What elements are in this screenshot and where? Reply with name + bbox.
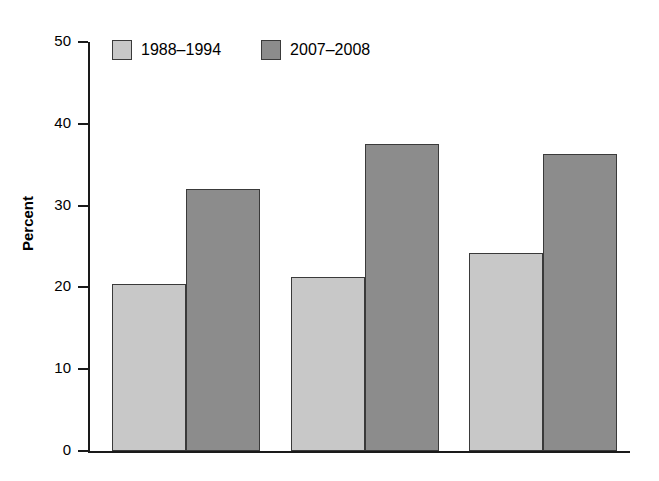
legend-swatch-dark [261, 40, 281, 60]
chart-legend: 1988–19942007–2008 [112, 40, 370, 60]
legend-label: 2007–2008 [290, 42, 370, 58]
legend-item-1: 1988–1994 [112, 40, 221, 60]
bar-3-period2 [543, 154, 617, 451]
bar-chart-figure: Percent 01020304050 1988–19942007–2008 [0, 0, 659, 481]
bar-1-period2 [186, 189, 260, 451]
legend-swatch-light [112, 40, 132, 60]
bar-3-period1 [469, 253, 543, 451]
bar-1-period1 [112, 284, 186, 451]
bar-2-period2 [365, 144, 439, 451]
bars-area [0, 0, 659, 481]
bar-2-period1 [291, 277, 365, 451]
legend-item-2: 2007–2008 [261, 40, 370, 60]
legend-label: 1988–1994 [141, 42, 221, 58]
